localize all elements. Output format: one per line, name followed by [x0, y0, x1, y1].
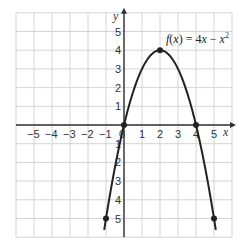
data-point	[121, 122, 127, 128]
x-axis-arrow-icon	[230, 122, 236, 128]
y-tick-label: 2	[115, 82, 121, 94]
data-point	[157, 47, 163, 53]
y-tick-label: 5	[115, 213, 121, 225]
x-tick-label: 5	[211, 128, 217, 140]
x-tick-label: −5	[27, 128, 40, 140]
x-tick-label: 1	[139, 128, 145, 140]
y-tick-label: 4	[115, 44, 121, 56]
function-label: f(x) = 4x − x2	[166, 31, 229, 46]
x-tick-label: 3	[175, 128, 181, 140]
y-tick-label: 5	[115, 26, 121, 38]
y-tick-label: 3	[115, 175, 121, 187]
x-tick-label: −3	[63, 128, 76, 140]
y-tick-label: 1	[115, 100, 121, 112]
x-tick-label: −4	[45, 128, 58, 140]
data-point	[103, 216, 109, 222]
y-tick-label: 4	[115, 194, 121, 206]
x-tick-label: 2	[157, 128, 163, 140]
y-axis-arrow-icon	[121, 8, 127, 14]
y-tick-label: 3	[115, 63, 121, 75]
x-tick-label: −2	[81, 128, 94, 140]
data-point	[211, 216, 217, 222]
data-point	[193, 122, 199, 128]
function-graph: −5−4−3−2−10123455432112345 f(x) = 4x − x…	[0, 0, 246, 251]
y-axis-label: y	[112, 9, 119, 23]
x-tick-label: −1	[99, 128, 112, 140]
x-axis-label: x	[222, 125, 229, 139]
